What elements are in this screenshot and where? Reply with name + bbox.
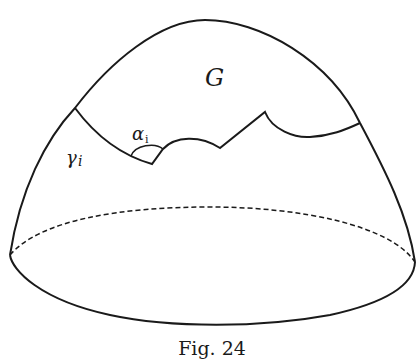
angle-label: α <box>132 123 144 144</box>
region-label: G <box>205 64 224 92</box>
curve-label: γ <box>66 147 77 168</box>
figure-caption: Fig. 24 <box>178 337 246 359</box>
base-front-curve <box>10 255 415 325</box>
base-back-curve <box>10 207 415 262</box>
angle-subscript: i <box>145 133 149 146</box>
curve-subscript: i <box>78 153 82 169</box>
region-boundary-curve <box>75 108 360 164</box>
dome-diagram: G α i γ i Fig. 24 <box>0 0 419 363</box>
